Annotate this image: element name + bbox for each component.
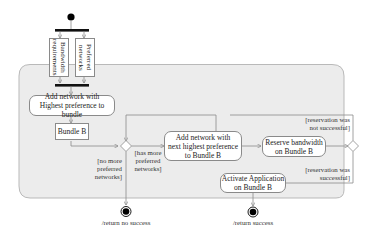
- action-label-line: Activate Application: [222, 174, 284, 183]
- action-add-next-preference: Add network with next highest preference…: [164, 131, 242, 161]
- action-activate-application: Activate Application on Bundle B: [220, 173, 286, 193]
- guard-line: successful]: [298, 174, 350, 182]
- final-node-success: [248, 207, 258, 217]
- guard-reservation-not-successful: [reservation was not successful]: [298, 116, 350, 132]
- action-label-line: next highest preference: [168, 142, 238, 151]
- action-label-line: Add network with: [176, 133, 231, 142]
- final-label-success: /return success: [228, 219, 278, 227]
- fork-bar-top: [55, 29, 89, 32]
- object-label: Bundle B: [58, 127, 87, 136]
- guard-line: [reservation was: [298, 116, 350, 124]
- guard-reservation-successful: [reservation was successful]: [298, 166, 350, 182]
- action-label-line: on Bundle B: [275, 147, 313, 156]
- guard-line: [no more: [90, 157, 122, 165]
- action-reserve-bandwidth: Reserve bandwidth on Bundle B: [262, 136, 326, 157]
- guard-no-more-networks: [no more preferred networks]: [90, 157, 122, 181]
- object-bandwidth-requirements: Bandwidth requirements: [49, 38, 69, 77]
- object-label: Preferred networks: [77, 39, 93, 76]
- action-label-line: Add network with: [45, 92, 100, 101]
- object-label: Bandwidth requirements: [51, 39, 67, 76]
- action-label-line: to Bundle B: [185, 151, 221, 160]
- action-label-line: Highest preference to bundle: [30, 101, 114, 119]
- object-preferred-networks: Preferred networks: [75, 38, 95, 77]
- action-label-line: Reserve bandwidth: [265, 138, 323, 147]
- final-node-no-success: [121, 207, 131, 217]
- guard-line: preferred: [131, 157, 165, 165]
- guard-line: [has more: [131, 149, 165, 157]
- join-bar: [55, 84, 89, 87]
- initial-node: [67, 13, 74, 20]
- guard-has-more-networks: [has more preferred networks]: [131, 149, 165, 173]
- action-label-line: on Bundle B: [234, 183, 272, 192]
- guard-line: networks]: [131, 165, 165, 173]
- guard-line: [reservation was: [298, 166, 350, 174]
- decision-node-reservation: [348, 141, 359, 152]
- object-bundle-b: Bundle B: [55, 123, 89, 140]
- final-label-no-success: /return no success: [96, 219, 156, 227]
- guard-line: networks]: [90, 173, 122, 181]
- guard-line: preferred: [90, 165, 122, 173]
- action-add-highest-preference: Add network with Highest preference to b…: [29, 95, 115, 116]
- guard-line: not successful]: [298, 124, 350, 132]
